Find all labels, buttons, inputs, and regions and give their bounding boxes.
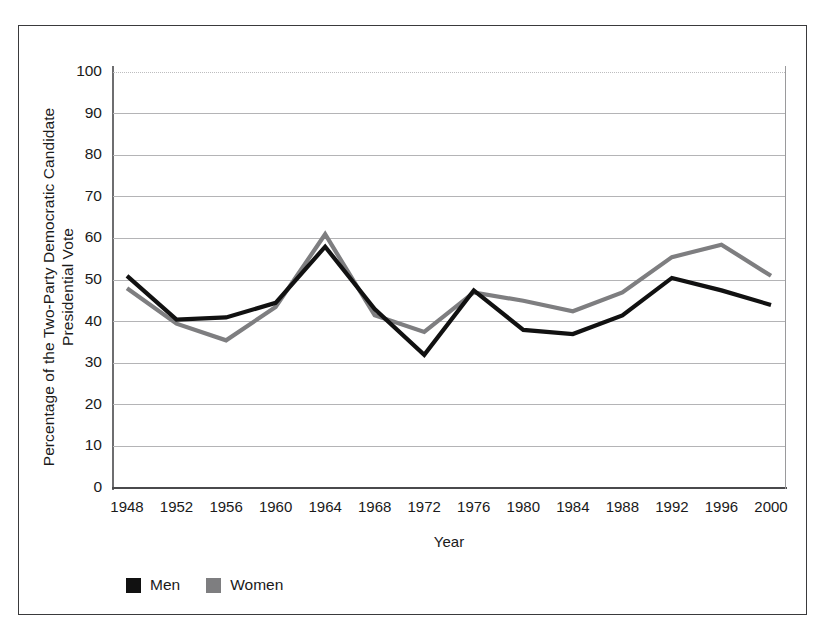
y-tick-70: 70	[34, 187, 102, 205]
figure-container: Percentage of the Two-Party Democratic C…	[0, 0, 822, 637]
y-tick-90: 90	[34, 104, 102, 122]
legend-item-women: Women	[206, 576, 283, 594]
legend-label-men: Men	[150, 576, 180, 594]
y-tick-10: 10	[34, 436, 102, 454]
chart-legend: Men Women	[126, 576, 283, 594]
plot-area	[113, 72, 785, 488]
y-tick-100: 100	[34, 62, 102, 80]
plot-right-border	[785, 66, 786, 489]
y-tick-0: 0	[34, 478, 102, 496]
y-tick-30: 30	[34, 353, 102, 371]
y-tick-80: 80	[34, 145, 102, 163]
y-tick-20: 20	[34, 395, 102, 413]
legend-item-men: Men	[126, 576, 180, 594]
legend-swatch-men	[126, 578, 141, 593]
y-tick-60: 60	[34, 228, 102, 246]
x-axis-title: Year	[113, 533, 785, 550]
legend-swatch-women	[206, 578, 221, 593]
x-tick-2000: 2000	[741, 498, 801, 515]
y-tick-50: 50	[34, 270, 102, 288]
line-chart-svg	[113, 72, 785, 488]
legend-label-women: Women	[230, 576, 283, 594]
y-tick-40: 40	[34, 312, 102, 330]
